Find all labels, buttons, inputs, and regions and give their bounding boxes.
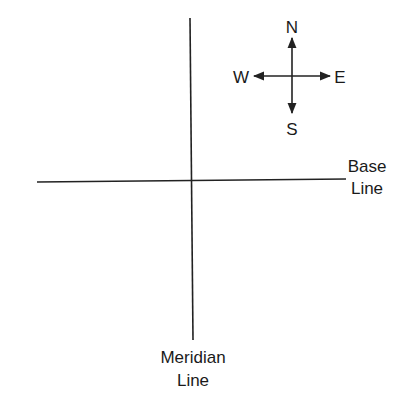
base-line-label-line1: Base bbox=[348, 157, 387, 176]
south-label: S bbox=[286, 120, 297, 139]
base-line-label: Base Line bbox=[348, 157, 387, 198]
west-label: W bbox=[233, 68, 249, 87]
meridian-line-label: Meridian Line bbox=[160, 348, 225, 390]
meridian-line-label-line1: Meridian bbox=[160, 348, 225, 367]
meridian-line-label-line2: Line bbox=[177, 371, 209, 390]
meridian-line bbox=[190, 18, 193, 340]
base-line-label-line2: Line bbox=[351, 179, 383, 198]
compass-icon: N S W E bbox=[233, 18, 346, 139]
survey-diagram: N S W E Base Line Meridian Line bbox=[0, 0, 417, 420]
east-label: E bbox=[334, 68, 345, 87]
north-label: N bbox=[286, 18, 298, 37]
